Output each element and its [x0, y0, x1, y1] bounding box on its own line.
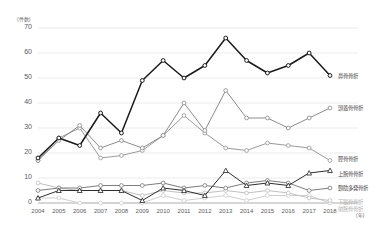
fracture-trend-line-chart: (件数) (年) 0102030405060702004200520062007…	[0, 0, 376, 234]
y-axis-tick-label: 20	[14, 148, 32, 155]
legend-label-4: 頸肋多発骨折	[338, 185, 368, 191]
y-axis-tick-label: 60	[14, 48, 32, 55]
legend-label-1: 頭蓋骨骨折	[338, 105, 363, 111]
y-axis-tick-label: 0	[14, 198, 32, 205]
y-axis-tick-label: 30	[14, 123, 32, 130]
legend-label-5: 下腿骨骨折	[338, 199, 363, 205]
legend-label-3: 上腕骨骨折	[338, 171, 363, 177]
y-axis-tick-label: 10	[14, 173, 32, 180]
legend-label-0: 鼻骨骨折	[338, 73, 358, 79]
y-axis-tick-label: 50	[14, 73, 32, 80]
legend-label-6: 前腕骨骨折	[338, 206, 363, 212]
legend-label-2: 脛骨骨折	[338, 156, 358, 162]
y-axis-tick-label: 70	[14, 23, 32, 30]
y-axis-tick-label: 40	[14, 98, 32, 105]
chart-plot-area	[0, 0, 376, 234]
